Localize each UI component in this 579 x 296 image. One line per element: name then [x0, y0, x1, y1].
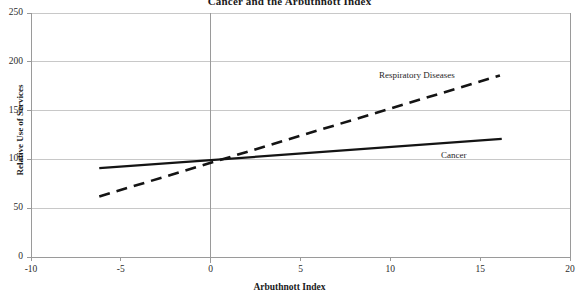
- y-axis-label: Relative Use of Services: [15, 60, 25, 200]
- axes-group: [31, 13, 570, 263]
- y-tick-label-250: 250: [0, 7, 23, 17]
- x-tick-label-15: 15: [465, 264, 495, 274]
- series-label-respiratory-diseases: Respiratory Diseases: [379, 70, 455, 80]
- series-lines-group: [99, 75, 501, 196]
- x-tick-label--5: -5: [106, 264, 136, 274]
- x-tick-label-0: 0: [196, 264, 226, 274]
- x-tick-label-10: 10: [375, 264, 405, 274]
- x-tick-label-20: 20: [555, 264, 579, 274]
- x-tick-label--10: -10: [16, 264, 46, 274]
- series-line-respiratory-diseases: [99, 75, 500, 196]
- y-tick-label-0: 0: [0, 251, 23, 261]
- series-label-cancer: Cancer: [441, 150, 466, 160]
- y-tick-label-50: 50: [0, 202, 23, 212]
- x-axis-label: Arbuthnott Index: [0, 282, 579, 292]
- gridlines-group: [31, 13, 570, 257]
- plot-area: [0, 0, 579, 296]
- chart-figure: Cancer and the Arbuthnott Index 05010015…: [0, 0, 579, 296]
- x-tick-label-5: 5: [286, 264, 316, 274]
